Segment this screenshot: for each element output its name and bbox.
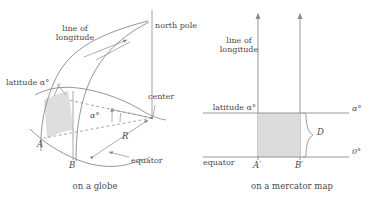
mercator-longitude-label-line2: longitude <box>220 45 258 54</box>
point-a-prime-label: A′ <box>253 161 261 170</box>
center-leader-line <box>153 105 155 117</box>
mercator-longitude-label-line1: line of <box>226 36 251 45</box>
mercator-latitude-alpha-label: latitude α° <box>186 104 256 112</box>
center-label: center <box>148 93 174 101</box>
angle-alpha-label: α° <box>90 112 99 120</box>
mercator-line-of-longitude-label: line of longitude <box>212 36 266 54</box>
equator-arc <box>30 129 132 166</box>
meridian-right-curve <box>76 22 149 161</box>
equator-leader-line <box>109 152 129 157</box>
globe-equator-label: equator <box>131 157 163 165</box>
radius-dimension-arrow <box>94 120 148 156</box>
latitude-arc-tail-right <box>146 113 166 120</box>
globe-latitude-alpha-label: latitude α° <box>6 79 49 87</box>
zero-degrees-axis-label: 0° <box>352 148 361 156</box>
alpha-degrees-axis-label: α° <box>352 105 361 113</box>
longitude-leader-line-2 <box>96 42 130 60</box>
radius-line-r <box>113 110 152 118</box>
globe-longitude-label-line2: longitude <box>56 33 94 42</box>
globe-longitude-label-line1: line of <box>62 24 87 33</box>
distance-brace <box>303 113 313 157</box>
mercator-shaded-region <box>258 113 300 157</box>
point-b-label: B <box>69 161 75 170</box>
north-pole-label: north pole <box>155 22 197 30</box>
angle-alpha-arc <box>120 113 121 122</box>
mercator-equator-label: equator <box>203 159 235 167</box>
figure-container: line of longitude north pole latitude α°… <box>0 0 377 202</box>
globe-line-of-longitude-label: line of longitude <box>46 24 104 42</box>
center-point-dot <box>151 117 153 119</box>
globe-caption: on a globe <box>30 182 160 191</box>
mercator-caption: on a mercator map <box>222 182 362 191</box>
distance-d-label: D <box>317 128 324 137</box>
point-a-label: A <box>37 140 43 149</box>
radius-label: R <box>122 132 128 141</box>
point-b-prime-label: B′ <box>295 161 303 170</box>
